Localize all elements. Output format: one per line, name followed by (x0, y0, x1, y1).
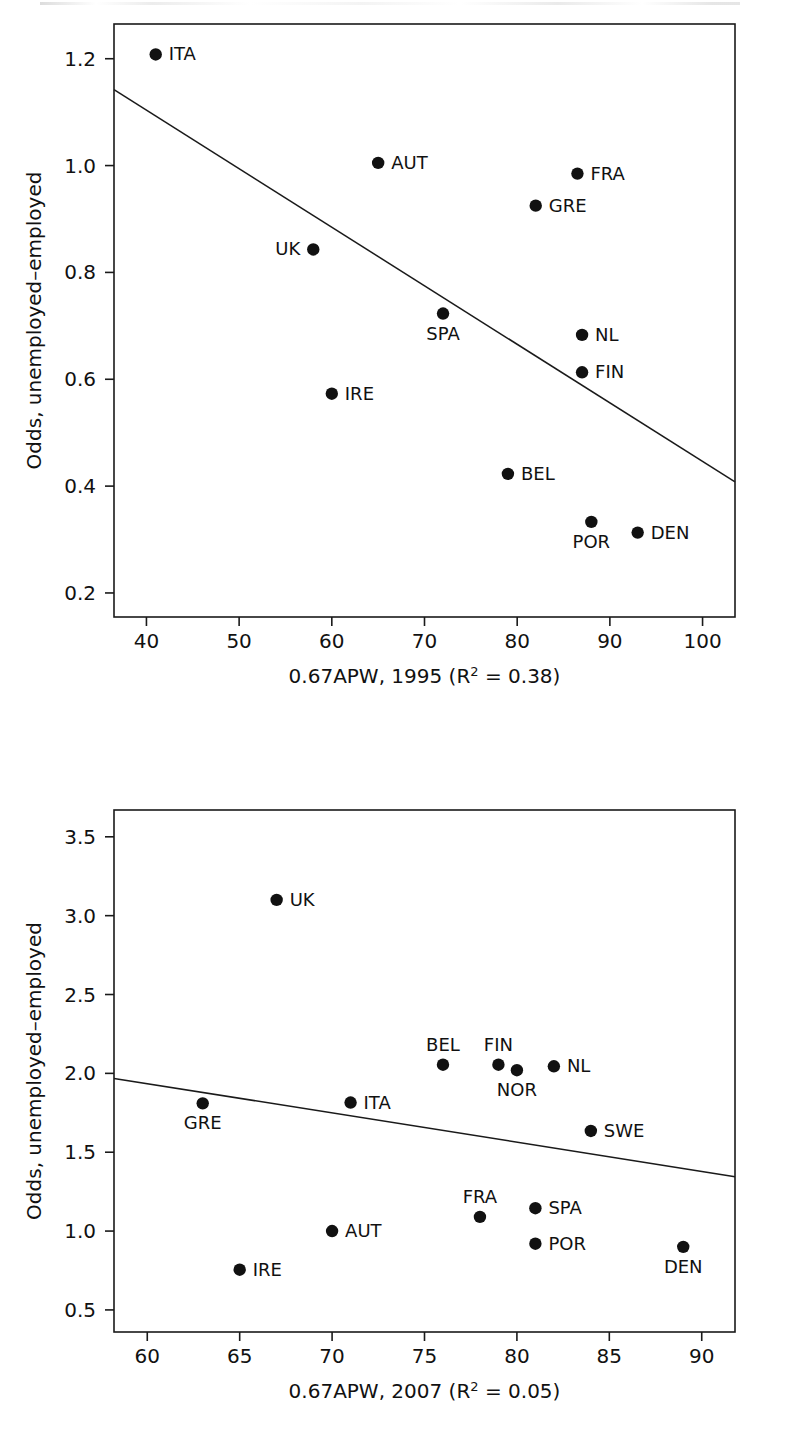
data-point (677, 1241, 689, 1253)
data-point-label: IRE (345, 383, 374, 404)
x-tick-label: 100 (683, 629, 721, 653)
data-point-label: DEN (664, 1256, 703, 1277)
x-tick-label: 90 (689, 1344, 714, 1368)
y-tick-label: 0.8 (64, 260, 96, 284)
data-point-label: DEN (651, 522, 690, 543)
data-point (571, 167, 583, 179)
scatter-plot-2007: 606570758085900.51.01.52.02.53.03.50.67A… (0, 700, 791, 1439)
data-point-label: NOR (497, 1079, 537, 1100)
x-tick-label: 75 (412, 1344, 437, 1368)
data-point (372, 157, 384, 169)
regression-line (114, 90, 735, 482)
x-tick-label: 80 (504, 1344, 529, 1368)
x-tick-label: 65 (227, 1344, 252, 1368)
y-axis-title: Odds, unemployed–employed (22, 172, 46, 470)
data-point (492, 1058, 504, 1070)
data-point (576, 329, 588, 341)
data-point-label: NL (595, 324, 619, 345)
data-point-label: SWE (604, 1120, 645, 1141)
x-tick-label: 60 (135, 1344, 160, 1368)
y-tick-label: 2.5 (64, 983, 96, 1007)
data-point (502, 468, 514, 480)
data-point-label: SPA (548, 1197, 582, 1218)
data-point-label: POR (573, 531, 611, 552)
data-point-label: BEL (426, 1034, 460, 1055)
data-point (326, 387, 338, 399)
data-point (530, 199, 542, 211)
y-tick-label: 1.2 (64, 47, 96, 71)
data-point (344, 1096, 356, 1108)
y-tick-label: 0.6 (64, 367, 96, 391)
data-point (511, 1064, 523, 1076)
data-point-label: FRA (590, 163, 625, 184)
x-tick-label: 85 (597, 1344, 622, 1368)
data-point-label: UK (275, 238, 301, 259)
data-point (529, 1237, 541, 1249)
data-point-label: FRA (463, 1186, 498, 1207)
y-tick-label: 3.0 (64, 904, 96, 928)
y-tick-label: 1.0 (64, 154, 96, 178)
y-tick-label: 1.5 (64, 1140, 96, 1164)
y-tick-label: 0.5 (64, 1298, 96, 1322)
x-tick-label: 70 (319, 1344, 344, 1368)
data-point-label: IRE (253, 1259, 282, 1280)
x-tick-label: 40 (134, 629, 159, 653)
y-tick-label: 0.2 (64, 581, 96, 605)
data-point (437, 1058, 449, 1070)
data-point (270, 894, 282, 906)
data-point-label: POR (548, 1233, 586, 1254)
data-point-label: AUT (391, 152, 428, 173)
data-point (529, 1202, 541, 1214)
data-point (585, 516, 597, 528)
data-point-label: ITA (364, 1092, 392, 1113)
data-point-label: NL (567, 1055, 591, 1076)
data-point-label: BEL (521, 463, 555, 484)
data-point-label: UK (290, 889, 316, 910)
data-point (150, 48, 162, 60)
figure-page: 4050607080901000.20.40.60.81.01.20.67APW… (0, 0, 791, 1439)
x-tick-label: 90 (597, 629, 622, 653)
y-tick-label: 1.0 (64, 1219, 96, 1243)
data-point (437, 307, 449, 319)
chart-panel-top: 4050607080901000.20.40.60.81.01.20.67APW… (0, 0, 791, 700)
data-point-label: ITA (169, 43, 197, 64)
x-tick-label: 60 (319, 629, 344, 653)
data-point (576, 366, 588, 378)
scatter-plot-1995: 4050607080901000.20.40.60.81.01.20.67APW… (0, 0, 791, 700)
data-point (307, 243, 319, 255)
data-point (474, 1211, 486, 1223)
x-tick-label: 50 (226, 629, 251, 653)
data-point-label: AUT (345, 1220, 382, 1241)
y-tick-label: 0.4 (64, 474, 96, 498)
data-point-label: GRE (184, 1112, 222, 1133)
data-point-label: FIN (595, 361, 624, 382)
x-axis-title: 0.67APW, 1995 (R2 = 0.38) (289, 664, 561, 689)
x-axis-title: 0.67APW, 2007 (R2 = 0.05) (289, 1379, 561, 1404)
data-point (585, 1125, 597, 1137)
data-point-label: GRE (549, 195, 587, 216)
data-point (233, 1264, 245, 1276)
y-axis-title: Odds, unemployed–employed (22, 922, 46, 1220)
data-point (326, 1225, 338, 1237)
x-tick-label: 80 (504, 629, 529, 653)
data-point (548, 1060, 560, 1072)
y-tick-label: 2.0 (64, 1061, 96, 1085)
data-point (631, 526, 643, 538)
chart-panel-bottom: 606570758085900.51.01.52.02.53.03.50.67A… (0, 700, 791, 1439)
y-tick-label: 3.5 (64, 825, 96, 849)
data-point (197, 1097, 209, 1109)
data-point-label: SPA (426, 323, 460, 344)
x-tick-label: 70 (412, 629, 437, 653)
data-point-label: FIN (484, 1034, 513, 1055)
